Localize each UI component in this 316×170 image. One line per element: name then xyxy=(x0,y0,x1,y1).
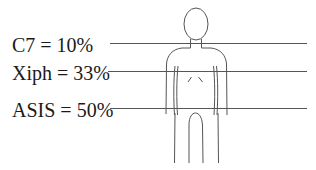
head xyxy=(184,8,208,40)
human-figure xyxy=(166,8,227,163)
landmark-label-asis: ASIS = 50% xyxy=(12,100,113,120)
right-arm-inner-2 xyxy=(217,66,218,115)
left-leg-outer xyxy=(175,113,176,163)
landmark-label-xiph: Xiph = 33% xyxy=(12,63,110,83)
ribcage-left xyxy=(188,77,192,82)
left-arm-inner-1 xyxy=(174,66,175,115)
body-landmark-diagram: C7 = 10% Xiph = 33% ASIS = 50% xyxy=(0,0,316,170)
inner-legs xyxy=(189,113,203,163)
left-arm-inner-2 xyxy=(177,66,178,115)
right-arm-inner-1 xyxy=(214,66,215,115)
diagram-canvas xyxy=(0,0,316,170)
ribcage-right xyxy=(199,77,203,82)
landmark-label-c7: C7 = 10% xyxy=(12,35,93,55)
left-shoulder-arm-outer xyxy=(166,48,191,114)
right-leg-outer xyxy=(218,113,219,163)
